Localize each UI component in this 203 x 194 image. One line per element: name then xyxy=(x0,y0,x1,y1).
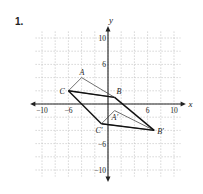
y-axis-label: y xyxy=(108,15,113,25)
point-label: C′ xyxy=(95,126,102,135)
x-tick-label: −10 xyxy=(36,106,48,115)
coordinate-plane: −10−6610106−6−10xy ABCA′B′C′ xyxy=(0,0,203,194)
point-label: A′ xyxy=(111,113,119,122)
x-tick-label: 10 xyxy=(170,106,178,115)
parallelogram-edge xyxy=(101,124,154,131)
y-tick-label: −10 xyxy=(94,166,106,175)
y-tick-label: −6 xyxy=(98,140,106,149)
axis-arrow-icon xyxy=(181,102,186,107)
point-label: B′ xyxy=(157,127,164,136)
axis-arrow-icon xyxy=(106,177,111,182)
axis-arrow-icon xyxy=(30,102,35,107)
x-axis-label: x xyxy=(188,99,193,109)
point-label: C xyxy=(59,87,65,96)
point-label: B xyxy=(117,87,122,96)
x-tick-label: 6 xyxy=(146,106,150,115)
axis-arrow-icon xyxy=(106,26,111,31)
x-tick-label: −6 xyxy=(64,106,72,115)
y-tick-label: 6 xyxy=(102,60,106,69)
point-label: A xyxy=(79,68,85,77)
parallelogram-edge xyxy=(68,91,101,124)
y-tick-label: 10 xyxy=(99,34,107,43)
